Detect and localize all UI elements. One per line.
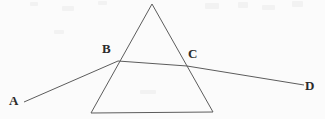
emergent-ray-segment-CD <box>187 66 304 85</box>
diagram-svg <box>0 0 325 119</box>
light-rays <box>24 61 304 102</box>
vertex-label-c: C <box>188 47 197 60</box>
vertex-label-d: D <box>305 79 314 92</box>
incident-ray-segment-AB <box>24 61 118 102</box>
internal-ray-segment-BC <box>118 61 187 66</box>
vertex-label-a: A <box>9 94 18 107</box>
vertex-label-b: B <box>102 42 111 55</box>
geometry-figure-canvas: A B C D <box>0 0 325 119</box>
